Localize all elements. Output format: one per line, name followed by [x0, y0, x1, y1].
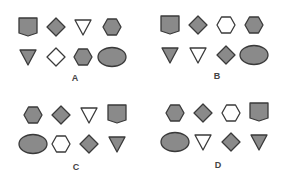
- pentagon-filled-shape: [108, 105, 126, 123]
- triangle-down-filled-shape: [162, 48, 178, 63]
- diamond-filled-shape: [52, 106, 70, 124]
- diamond-filled-shape: [222, 133, 240, 151]
- diamond-filled-shape: [194, 104, 212, 122]
- option-a-group: [19, 18, 126, 67]
- option-b-label: B: [214, 71, 221, 81]
- triangle-down-empty-shape: [190, 48, 206, 63]
- hexagon-filled-shape: [166, 105, 184, 121]
- pentagon-filled-shape: [19, 18, 37, 36]
- ellipse-filled-shape: [19, 135, 47, 154]
- triangle-down-empty-shape: [81, 108, 97, 123]
- pentagon-filled-shape: [161, 16, 179, 34]
- hexagon-filled-shape: [24, 107, 42, 123]
- option-c-group: [19, 105, 126, 154]
- triangle-down-empty-shape: [75, 20, 91, 35]
- diamond-filled-shape: [189, 16, 207, 34]
- diamond-filled-shape: [217, 46, 235, 64]
- diamond-empty-shape: [47, 48, 65, 66]
- option-d-label: D: [215, 160, 222, 170]
- triangle-down-filled-shape: [20, 50, 36, 65]
- hexagon-filled-shape: [103, 19, 121, 35]
- hexagon-filled-shape: [245, 17, 263, 33]
- figure-canvas: [0, 0, 287, 184]
- option-b-group: [161, 16, 268, 65]
- hexagon-empty-shape: [222, 105, 240, 121]
- diamond-filled-shape: [80, 135, 98, 153]
- triangle-down-filled-shape: [109, 137, 125, 152]
- triangle-down-filled-shape: [251, 135, 267, 150]
- ellipse-filled-shape: [98, 48, 126, 67]
- triangle-down-empty-shape: [195, 135, 211, 150]
- hexagon-empty-shape: [217, 17, 235, 33]
- option-c-label: C: [73, 162, 80, 172]
- hexagon-empty-shape: [52, 136, 70, 152]
- ellipse-filled-shape: [240, 46, 268, 65]
- option-a-label: A: [72, 73, 79, 83]
- ellipse-filled-shape: [161, 133, 189, 152]
- hexagon-filled-shape: [74, 49, 92, 65]
- pentagon-filled-shape: [250, 103, 268, 121]
- diamond-filled-shape: [47, 18, 65, 36]
- option-d-group: [161, 103, 268, 152]
